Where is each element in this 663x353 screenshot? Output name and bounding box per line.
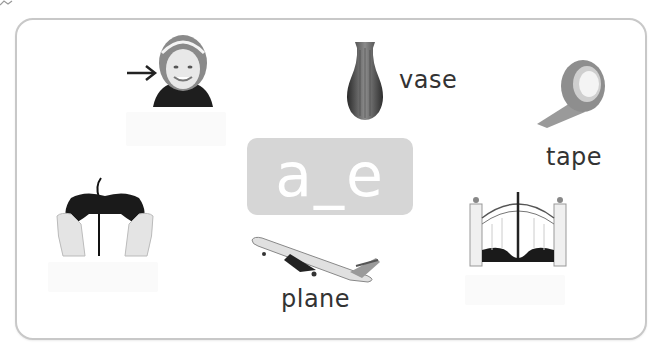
hidden-word-gate [465, 275, 565, 305]
word-tape: tape [546, 143, 602, 171]
word-plane: plane [281, 285, 350, 313]
plane-image [250, 232, 382, 288]
word-vase: vase [399, 66, 457, 94]
gate-image [468, 188, 568, 270]
hidden-word-game [48, 262, 158, 292]
game-controller-image [55, 176, 155, 258]
hidden-word-girl [126, 112, 226, 146]
phonics-pattern-box: a_e [247, 138, 413, 215]
phonics-pattern: a_e [275, 145, 385, 205]
tape-image [533, 52, 609, 128]
vase-image [343, 40, 387, 122]
girl-image [143, 31, 223, 107]
corner-mark [0, 0, 14, 6]
